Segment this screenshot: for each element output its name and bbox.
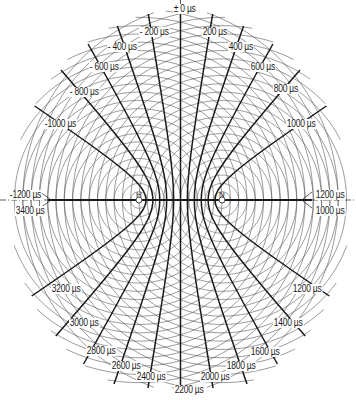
time-difference-label: 1400 µs <box>273 318 303 328</box>
time-difference-label: 2400 µs <box>136 372 166 382</box>
time-difference-label: ± 0 µs <box>173 4 196 14</box>
time-difference-label: -1000 µs <box>44 119 77 129</box>
time-difference-label: 800 µs <box>273 84 299 94</box>
leader-right-bottom <box>303 201 312 208</box>
time-difference-label: 1200 µs <box>292 284 322 294</box>
time-difference-label: -1200 µs <box>9 190 42 200</box>
time-difference-label: 200 µs <box>202 27 228 37</box>
time-difference-label: 1200 µs <box>315 190 345 200</box>
time-difference-label: 2200 µs <box>174 385 204 395</box>
time-difference-label: - 600 µs <box>89 62 120 72</box>
time-difference-label: 3000 µs <box>69 318 99 328</box>
time-difference-label: 400 µs <box>228 42 254 52</box>
time-difference-label: - 800 µs <box>69 87 100 97</box>
station-master-label: H <box>136 191 142 199</box>
time-difference-label: 1000 µs <box>315 206 345 216</box>
time-difference-label: 2800 µs <box>86 346 116 356</box>
time-difference-label: 3200 µs <box>51 284 81 294</box>
time-difference-label: 1800 µs <box>226 361 256 371</box>
leader-right-top <box>303 192 312 199</box>
station-slave-label: N <box>219 191 225 199</box>
time-difference-label: 1600 µs <box>250 347 280 357</box>
time-difference-label: - 200 µs <box>139 27 170 37</box>
time-difference-label: 1000 µs <box>286 119 316 129</box>
time-difference-label: 2000 µs <box>200 372 230 382</box>
time-difference-label: - 400 µs <box>107 42 138 52</box>
time-difference-label: 600 µs <box>250 62 276 72</box>
hyperbolic-navigation-diagram <box>0 0 356 400</box>
time-difference-label: 3400 µs <box>15 206 45 216</box>
time-difference-label: 2600 µs <box>111 361 141 371</box>
